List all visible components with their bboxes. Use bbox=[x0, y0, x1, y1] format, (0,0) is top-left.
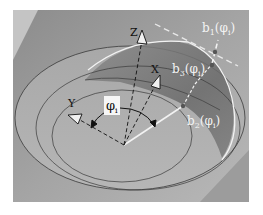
b2-label: b2(φi) bbox=[187, 114, 220, 130]
point-b1 bbox=[213, 50, 217, 54]
z-label: Z bbox=[130, 26, 138, 39]
y-label: Y bbox=[67, 97, 76, 110]
point-b3 bbox=[210, 63, 214, 67]
point-b2 bbox=[181, 104, 185, 108]
b1-label: b1(φi) bbox=[202, 21, 235, 37]
x-label: X bbox=[151, 63, 159, 76]
tool-surface-diagram: Z X Y φi b1(φi) b3(φi) b2(φi) bbox=[0, 0, 263, 215]
b3-label: b3(φi) bbox=[172, 62, 205, 78]
